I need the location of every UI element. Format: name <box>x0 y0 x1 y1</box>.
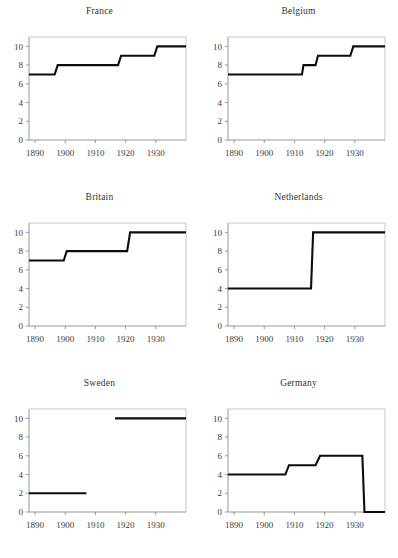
x-tick-label-france-1890: 1890 <box>26 148 45 158</box>
y-tick-label-britain-8: 8 <box>19 246 24 256</box>
x-tick-label-sweden-1930: 1930 <box>147 520 166 530</box>
x-tick-label-britain-1890: 1890 <box>26 334 45 344</box>
x-tick-label-netherlands-1920: 1920 <box>316 334 335 344</box>
plot-frame-belgium <box>228 37 385 140</box>
plot-frame-germany <box>228 409 385 512</box>
x-tick-label-sweden-1920: 1920 <box>117 520 136 530</box>
y-tick-label-belgium-0: 0 <box>218 135 223 145</box>
axis-lines-netherlands <box>228 223 385 326</box>
chart-grid: France024681018901900191019201930Belgium… <box>0 0 398 558</box>
x-tick-label-germany-1920: 1920 <box>316 520 335 530</box>
y-tick-label-netherlands-6: 6 <box>218 265 223 275</box>
y-tick-label-france-10: 10 <box>14 42 24 52</box>
x-tick-label-belgium-1930: 1930 <box>346 148 365 158</box>
x-tick-label-netherlands-1930: 1930 <box>346 334 365 344</box>
x-tick-label-britain-1920: 1920 <box>117 334 136 344</box>
chart-panel-netherlands: Netherlands024681018901900191019201930 <box>199 186 398 372</box>
chart-panel-belgium: Belgium024681018901900191019201930 <box>199 0 398 186</box>
axis-lines-sweden <box>29 409 186 512</box>
plot-frame-sweden <box>29 409 186 512</box>
y-tick-label-sweden-0: 0 <box>19 507 24 517</box>
series-line-belgium <box>228 46 385 74</box>
y-tick-label-sweden-10: 10 <box>14 414 24 424</box>
x-tick-label-germany-1930: 1930 <box>346 520 365 530</box>
axis-lines-belgium <box>228 37 385 140</box>
y-tick-label-sweden-6: 6 <box>19 451 24 461</box>
plot-frame-netherlands <box>228 223 385 326</box>
x-tick-label-germany-1890: 1890 <box>225 520 244 530</box>
y-tick-label-germany-4: 4 <box>218 470 223 480</box>
y-tick-label-france-2: 2 <box>19 116 24 126</box>
series-line-sweden <box>29 418 186 493</box>
y-tick-label-sweden-2: 2 <box>19 488 24 498</box>
axis-lines-germany <box>228 409 385 512</box>
plot-frame-france <box>29 37 186 140</box>
y-tick-label-germany-8: 8 <box>218 432 223 442</box>
chart-panel-sweden: Sweden024681018901900191019201930 <box>0 372 199 558</box>
y-tick-label-belgium-10: 10 <box>213 42 223 52</box>
y-tick-label-netherlands-0: 0 <box>218 321 223 331</box>
chart-panel-france: France024681018901900191019201930 <box>0 0 199 186</box>
x-tick-label-britain-1900: 1900 <box>56 334 75 344</box>
series-line-germany <box>228 456 385 512</box>
y-tick-label-sweden-4: 4 <box>19 470 24 480</box>
y-tick-label-belgium-6: 6 <box>218 79 223 89</box>
x-tick-label-netherlands-1910: 1910 <box>285 334 304 344</box>
y-tick-label-britain-4: 4 <box>19 284 24 294</box>
plot-frame-britain <box>29 223 186 326</box>
chart-panel-germany: Germany024681018901900191019201930 <box>199 372 398 558</box>
x-tick-label-germany-1910: 1910 <box>285 520 304 530</box>
y-tick-label-britain-6: 6 <box>19 265 24 275</box>
y-tick-label-britain-10: 10 <box>14 228 24 238</box>
y-tick-label-netherlands-10: 10 <box>213 228 223 238</box>
x-tick-label-britain-1930: 1930 <box>147 334 166 344</box>
y-tick-label-germany-10: 10 <box>213 414 223 424</box>
x-tick-label-belgium-1900: 1900 <box>255 148 274 158</box>
y-tick-label-france-8: 8 <box>19 60 24 70</box>
y-tick-label-belgium-4: 4 <box>218 98 223 108</box>
axis-lines-britain <box>29 223 186 326</box>
series-line-france <box>29 46 186 74</box>
x-tick-label-france-1910: 1910 <box>86 148 105 158</box>
y-tick-label-france-4: 4 <box>19 98 24 108</box>
x-tick-label-germany-1900: 1900 <box>255 520 274 530</box>
y-tick-label-sweden-8: 8 <box>19 432 24 442</box>
y-tick-label-britain-2: 2 <box>19 302 24 312</box>
y-tick-label-germany-6: 6 <box>218 451 223 461</box>
y-tick-label-france-0: 0 <box>19 135 24 145</box>
x-tick-label-sweden-1900: 1900 <box>56 520 75 530</box>
x-tick-label-netherlands-1890: 1890 <box>225 334 244 344</box>
y-tick-label-france-6: 6 <box>19 79 24 89</box>
y-tick-label-germany-2: 2 <box>218 488 223 498</box>
series-line-britain <box>29 232 186 260</box>
x-tick-label-belgium-1890: 1890 <box>225 148 244 158</box>
x-tick-label-france-1930: 1930 <box>147 148 166 158</box>
y-tick-label-britain-0: 0 <box>19 321 24 331</box>
x-tick-label-belgium-1920: 1920 <box>316 148 335 158</box>
x-tick-label-sweden-1890: 1890 <box>26 520 45 530</box>
x-tick-label-france-1900: 1900 <box>56 148 75 158</box>
y-tick-label-belgium-8: 8 <box>218 60 223 70</box>
y-tick-label-netherlands-8: 8 <box>218 246 223 256</box>
chart-panel-britain: Britain024681018901900191019201930 <box>0 186 199 372</box>
x-tick-label-netherlands-1900: 1900 <box>255 334 274 344</box>
x-tick-label-britain-1910: 1910 <box>86 334 105 344</box>
x-tick-label-france-1920: 1920 <box>117 148 136 158</box>
y-tick-label-netherlands-2: 2 <box>218 302 223 312</box>
x-tick-label-belgium-1910: 1910 <box>285 148 304 158</box>
axis-lines-france <box>29 37 186 140</box>
series-line-netherlands <box>228 232 385 288</box>
y-tick-label-belgium-2: 2 <box>218 116 223 126</box>
x-tick-label-sweden-1910: 1910 <box>86 520 105 530</box>
y-tick-label-germany-0: 0 <box>218 507 223 517</box>
y-tick-label-netherlands-4: 4 <box>218 284 223 294</box>
